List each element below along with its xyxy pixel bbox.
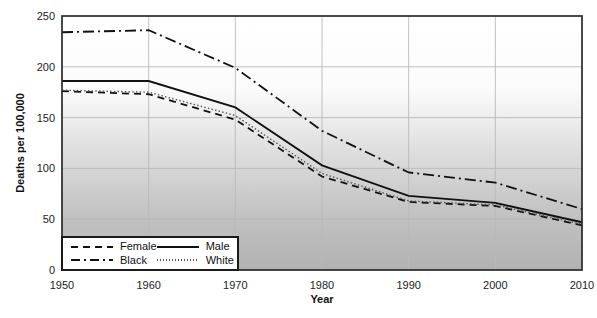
y-tick-label: 150	[37, 112, 55, 124]
x-tick-label: 2000	[483, 279, 507, 291]
legend-label-white: White	[206, 255, 234, 266]
legend-label-female: Female	[120, 241, 157, 252]
legend-item-white: White	[157, 255, 234, 266]
x-tick-label: 1960	[136, 279, 160, 291]
x-tick-label: 1980	[310, 279, 334, 291]
x-axis-title: Year	[310, 293, 333, 305]
white-dotted-line-sample	[157, 259, 199, 261]
male-solid-line-sample	[157, 246, 199, 248]
legend-label-black: Black	[120, 255, 147, 266]
stroke-mortality-chart: 0501001502002501950196019701980199020002…	[0, 0, 597, 318]
legend-item-black: Black	[71, 255, 157, 266]
black-dashdot-line-sample	[71, 259, 113, 261]
y-tick-label: 0	[49, 264, 55, 276]
x-tick-label: 1950	[50, 279, 74, 291]
legend-label-male: Male	[206, 241, 230, 252]
legend: Female Male Black White	[61, 236, 239, 271]
x-tick-label: 2010	[570, 279, 594, 291]
y-tick-label: 250	[37, 10, 55, 22]
legend-item-female: Female	[71, 241, 157, 252]
female-dashed-line-sample	[71, 246, 113, 248]
y-tick-label: 100	[37, 162, 55, 174]
y-axis-title: Deaths per 100,000	[14, 93, 26, 193]
legend-item-male: Male	[157, 241, 234, 252]
y-tick-label: 200	[37, 61, 55, 73]
y-tick-label: 50	[43, 213, 55, 225]
x-tick-label: 1970	[223, 279, 247, 291]
x-tick-label: 1990	[396, 279, 420, 291]
